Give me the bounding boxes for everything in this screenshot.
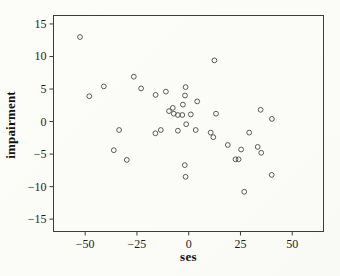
data-point <box>78 35 83 40</box>
data-point <box>184 122 189 127</box>
y-tick-label: −15 <box>28 212 47 226</box>
data-point <box>183 85 188 90</box>
data-point <box>258 107 263 112</box>
data-point <box>225 143 230 148</box>
y-tick-label: 5 <box>41 82 47 96</box>
y-axis-label: impairment <box>3 75 19 175</box>
data-point <box>242 189 247 194</box>
data-point <box>259 150 264 155</box>
data-point <box>188 112 193 117</box>
data-point <box>139 86 144 91</box>
data-point <box>101 84 106 89</box>
data-point <box>193 128 198 133</box>
data-point <box>183 93 188 98</box>
data-point <box>269 173 274 178</box>
data-point <box>270 117 275 122</box>
data-point <box>111 148 116 153</box>
data-point <box>153 131 158 136</box>
data-point <box>153 93 158 98</box>
data-point <box>208 130 213 135</box>
y-tick-label: −10 <box>28 180 47 194</box>
y-tick-label: 0 <box>41 115 47 129</box>
data-point <box>124 158 129 163</box>
data-point <box>170 106 175 111</box>
data-point <box>236 157 241 162</box>
y-tick-label: 10 <box>35 49 47 63</box>
data-point <box>176 128 181 133</box>
data-point <box>239 147 244 152</box>
data-point <box>164 89 169 94</box>
data-point <box>195 99 200 104</box>
data-point <box>158 128 163 133</box>
x-axis-label: ses <box>53 249 324 265</box>
scatter-figure: −15−10−5051015−50−2502550 impairment ses <box>0 0 340 276</box>
data-point <box>183 174 188 179</box>
data-point <box>131 74 136 79</box>
data-point <box>182 163 187 168</box>
y-tick-label: −5 <box>34 147 47 161</box>
data-point <box>117 128 122 133</box>
data-point <box>247 130 252 135</box>
y-tick-label: 15 <box>35 17 47 31</box>
data-point <box>214 111 219 116</box>
data-point <box>255 145 260 150</box>
scatter-plot-svg: −15−10−5051015−50−2502550 <box>0 0 340 276</box>
data-point <box>212 58 217 63</box>
data-point <box>181 102 186 107</box>
data-point <box>87 94 92 99</box>
data-point <box>211 135 216 140</box>
